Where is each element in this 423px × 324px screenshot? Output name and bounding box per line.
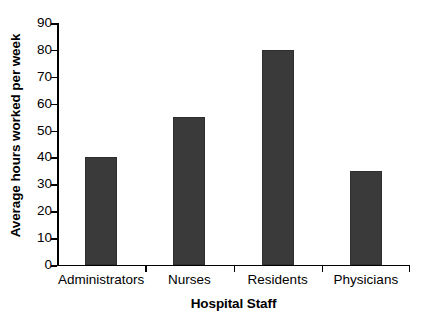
bar	[85, 157, 117, 265]
x-axis-title: Hospital Staff	[57, 296, 410, 311]
plot-area	[57, 23, 410, 265]
y-axis-title: Average hours worked per week	[4, 3, 26, 268]
y-axis-tick-label: 30	[26, 177, 52, 191]
x-axis-tick-label: Physicians	[334, 272, 399, 287]
y-axis-tick-label: 50	[26, 124, 52, 138]
y-axis-tick-label: 70	[26, 70, 52, 84]
y-axis-tick-label: 90	[26, 16, 52, 30]
x-axis-tick-label: Nurses	[168, 272, 211, 287]
x-axis-tick-labels: AdministratorsNursesResidentsPhysicians	[57, 272, 410, 292]
bar	[350, 171, 382, 265]
y-axis-tick-label: 40	[26, 150, 52, 164]
y-axis-tick-label: 0	[26, 258, 52, 272]
y-axis-tick-label: 20	[26, 204, 52, 218]
x-axis-tick-label: Administrators	[58, 272, 144, 287]
y-axis-tick-label: 60	[26, 97, 52, 111]
x-axis-tick-label: Residents	[248, 272, 308, 287]
bar	[262, 50, 294, 265]
y-axis-tick-labels: 0102030405060708090	[26, 0, 52, 324]
bar	[173, 117, 205, 265]
bar-chart: Average hours worked per week 0102030405…	[0, 0, 423, 324]
y-axis-tick-mark	[51, 265, 57, 267]
y-axis-tick-label: 80	[26, 43, 52, 57]
y-axis-tick-label: 10	[26, 231, 52, 245]
